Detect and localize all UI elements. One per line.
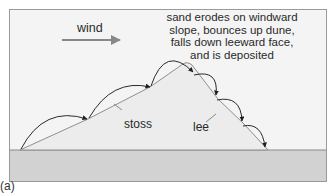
lee-label: lee <box>193 121 209 134</box>
dune <box>20 63 268 150</box>
description-line-3: falls down leeward face, <box>152 36 312 49</box>
description-line-1: sand erodes on windward <box>152 11 312 24</box>
description-line-2: slope, bounces up dune, <box>152 24 312 37</box>
process-description: sand erodes on windward slope, bounces u… <box>152 11 312 62</box>
panel-tag: (a) <box>0 180 15 193</box>
wind-label: wind <box>77 22 103 35</box>
ground <box>10 150 326 181</box>
stoss-label: stoss <box>124 118 152 131</box>
description-line-4: and is deposited <box>152 49 312 62</box>
